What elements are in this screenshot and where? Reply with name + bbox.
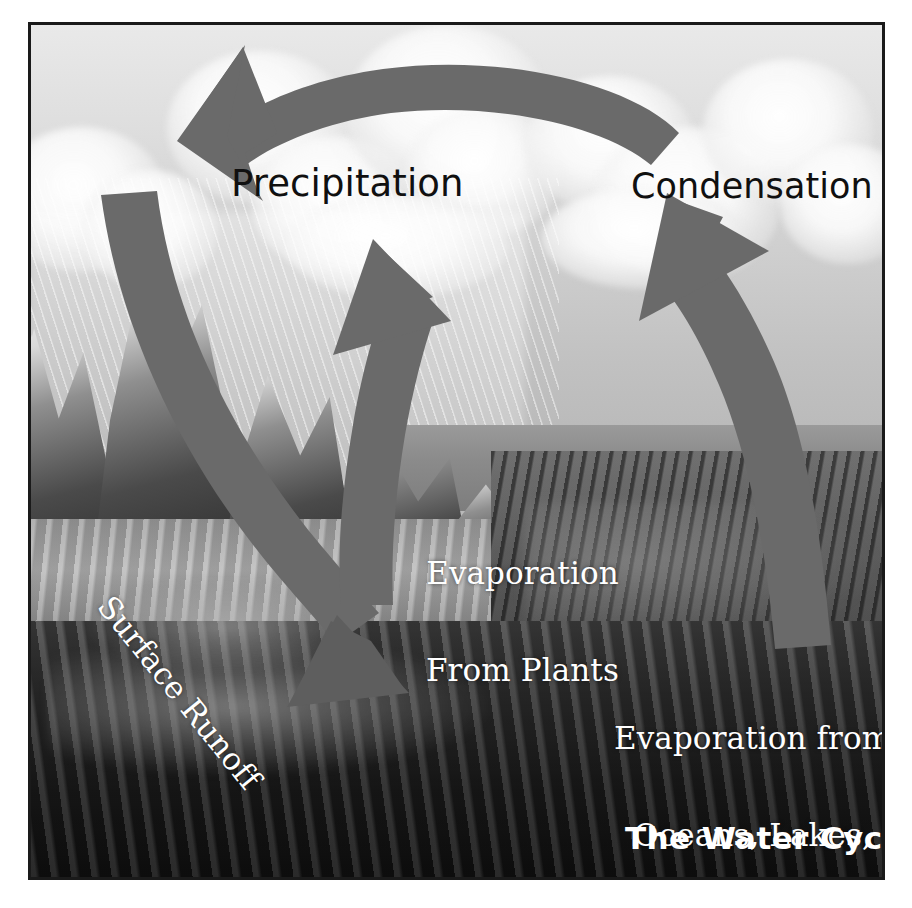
water-cycle-diagram-page: Precipitation Condensation Evaporation F… — [0, 0, 912, 908]
label-condensation: Condensation — [631, 168, 873, 204]
diagram-title: The Water Cycle — [625, 822, 882, 854]
label-evaporation-from-plants: Evaporation From Plants — [426, 493, 619, 751]
label-line: Evaporation — [426, 557, 619, 589]
illustration-scene: Precipitation Condensation Evaporation F… — [31, 25, 882, 877]
label-precipitation: Precipitation — [231, 165, 464, 203]
diagram-frame: Precipitation Condensation Evaporation F… — [28, 22, 885, 880]
evaporation-ocean-arrow — [639, 193, 831, 649]
label-line: From Plants — [426, 654, 619, 686]
label-line: Evaporation from — [614, 722, 882, 754]
